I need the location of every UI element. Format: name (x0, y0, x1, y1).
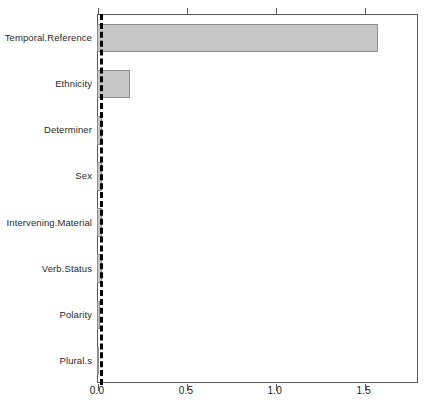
x-tick-top-3 (365, 8, 366, 15)
category-label-intervening-material: Intervening.Material (7, 216, 92, 227)
x-tick-top-1 (187, 8, 188, 15)
x-tick-top-0 (98, 8, 99, 15)
category-label-verb-status: Verb.Status (42, 262, 92, 273)
x-tick-top-2 (276, 8, 277, 15)
variable-importance-bar-chart: Temporal.Reference Ethnicity Determiner … (0, 0, 432, 420)
category-label-plural-s: Plural.s (60, 354, 92, 365)
category-label-temporal-reference: Temporal.Reference (5, 32, 92, 43)
bar-plural-s (97, 347, 99, 376)
reference-line (100, 14, 103, 385)
x-tick-label-1: 0.5 (179, 385, 194, 396)
category-label-sex: Sex (75, 170, 92, 181)
category-label-ethnicity: Ethnicity (55, 78, 92, 89)
category-axis-labels: Temporal.Reference Ethnicity Determiner … (0, 14, 92, 383)
x-tick-label-0: 0.0 (90, 385, 105, 396)
x-tick-label-2: 1.0 (268, 385, 283, 396)
bar-temporal-reference (97, 24, 378, 53)
category-label-polarity: Polarity (60, 308, 92, 319)
plot-panel (97, 14, 418, 383)
x-tick-label-3: 1.5 (356, 385, 371, 396)
category-label-determiner: Determiner (44, 124, 92, 135)
